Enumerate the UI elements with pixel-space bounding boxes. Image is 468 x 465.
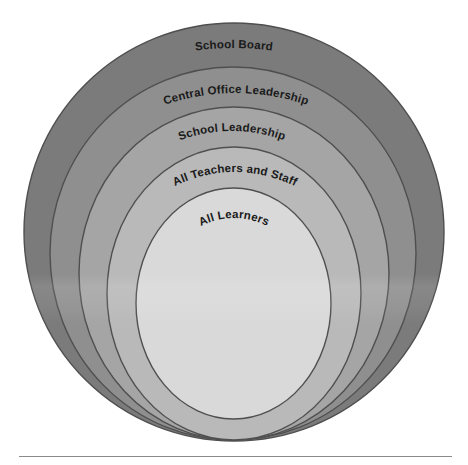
bottom-divider-line bbox=[19, 456, 452, 457]
nested-ring-diagram: School Board Central Office Leadership S… bbox=[0, 0, 468, 465]
